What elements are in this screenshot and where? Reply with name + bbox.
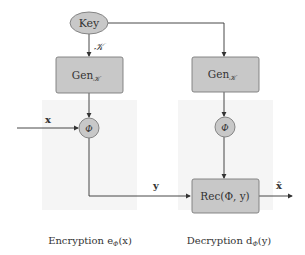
encryption-caption: Encryption eΦ(x): [48, 235, 132, 248]
input-x-label: x: [45, 114, 52, 125]
dec-gen-label: Gen: [208, 68, 230, 80]
encryption-panel-shade: [42, 100, 137, 210]
output-xhat-label: x̂: [276, 180, 283, 191]
encryption-decryption-diagram: Key 𝒦 Gen𝒦 Gen𝒦 Φ Φ Rec(Φ, y) x y x̂ Enc…: [0, 0, 305, 255]
enc-gen-label: Gen: [72, 69, 94, 81]
enc-phi-label: Φ: [85, 124, 92, 134]
cipher-y-label: y: [152, 180, 160, 191]
decryption-caption: Decryption dΦ(y): [187, 235, 272, 248]
rec-node: Rec(Φ, y): [192, 179, 259, 213]
dec-gen-node: Gen𝒦: [192, 57, 259, 92]
key-label: Key: [79, 17, 100, 30]
key-space-label: 𝒦: [94, 41, 107, 52]
dec-phi-label: Φ: [221, 123, 228, 133]
dec-phi-node: Φ: [215, 117, 235, 137]
enc-gen-node: Gen𝒦: [56, 57, 123, 93]
key-node: Key: [70, 12, 108, 34]
rec-label: Rec(Φ, y): [200, 190, 249, 202]
enc-phi-node: Φ: [79, 118, 99, 138]
